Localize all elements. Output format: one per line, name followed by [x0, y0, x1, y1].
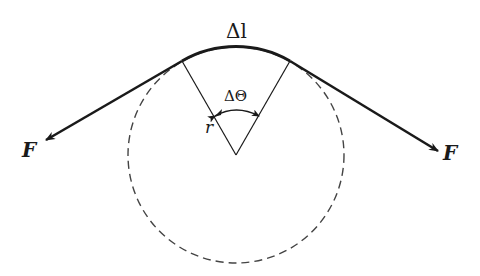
tension-on-curved-string-diagram: Δl ΔΘ r F F — [0, 0, 480, 276]
angle-label: ΔΘ — [224, 87, 247, 105]
force-arrow-left — [46, 61, 182, 140]
force-left-label: F — [21, 138, 38, 162]
force-right-label: F — [442, 141, 459, 165]
radius-label: r — [205, 117, 214, 137]
radius-line-left — [182, 61, 236, 155]
radius-line-right — [236, 61, 290, 155]
force-arrow-right — [290, 61, 438, 151]
string-arc — [182, 47, 290, 61]
angle-arrow-left-head — [214, 109, 222, 117]
arc-length-label: Δl — [226, 19, 247, 43]
